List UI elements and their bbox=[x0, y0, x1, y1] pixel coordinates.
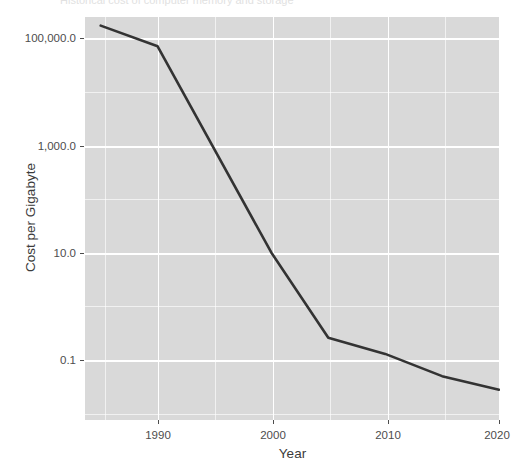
chart-title-fragment: Historical cost of computer memory and s… bbox=[60, 0, 300, 6]
x-tick-label-2000: 2000 bbox=[260, 429, 286, 442]
y-axis-title: Cost per Gigabyte bbox=[23, 128, 38, 308]
x-tick-mark-1990 bbox=[158, 420, 159, 424]
y-tick-mark-1000 bbox=[80, 146, 84, 147]
y-tick-label-1000: 1,000.0 bbox=[38, 140, 76, 152]
x-tick-label-2010: 2010 bbox=[375, 429, 401, 442]
x-tick-mark-2000 bbox=[273, 420, 274, 424]
y-tick-label-100000: 100,000.0 bbox=[25, 32, 76, 44]
y-tick-label-10: 10.0 bbox=[54, 247, 76, 259]
data-series-line bbox=[85, 17, 500, 420]
y-axis-ticks: 100,000.0 1,000.0 10.0 0.1 bbox=[0, 0, 76, 468]
plot-panel bbox=[85, 17, 500, 420]
chart-figure: Historical cost of computer memory and s… bbox=[0, 0, 514, 468]
x-tick-label-2020: 2020 bbox=[484, 429, 510, 442]
x-tick-mark-2010 bbox=[388, 420, 389, 424]
x-axis-title: Year bbox=[85, 446, 500, 461]
y-tick-label-0.1: 0.1 bbox=[60, 354, 76, 366]
x-tick-label-1990: 1990 bbox=[145, 429, 171, 442]
y-tick-mark-100000 bbox=[80, 38, 84, 39]
y-tick-mark-10 bbox=[80, 253, 84, 254]
y-tick-mark-0.1 bbox=[80, 360, 84, 361]
x-tick-mark-2020 bbox=[499, 420, 500, 424]
